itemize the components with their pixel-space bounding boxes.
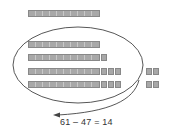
grouping-ellipse	[13, 27, 143, 103]
arrowhead-icon	[53, 113, 60, 118]
take-away-arrow	[58, 80, 139, 115]
ellipse-and-arrow	[0, 0, 175, 136]
equation-label: 61 – 47 = 14	[60, 117, 113, 127]
